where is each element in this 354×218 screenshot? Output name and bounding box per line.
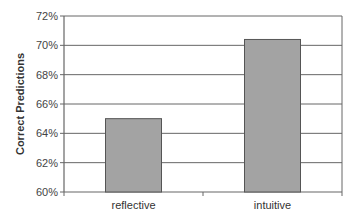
y-tick-label: 68% (36, 69, 58, 81)
y-tick-label: 60% (36, 186, 58, 198)
x-category-label: intuitive (254, 199, 291, 211)
y-tick-label: 70% (36, 39, 58, 51)
y-tick-label: 66% (36, 98, 58, 110)
x-category-label: reflective (111, 199, 155, 211)
y-axis-title: Correct Predictions (14, 53, 26, 155)
x-axis: reflectiveintuitive (64, 192, 342, 211)
y-tick-label: 64% (36, 127, 58, 139)
y-tick-label: 62% (36, 157, 58, 169)
bar-chart: 60%62%64%66%68%70%72% reflectiveintuitiv… (0, 0, 354, 218)
y-axis: 60%62%64%66%68%70%72% (36, 10, 64, 198)
bar-intuitive (245, 39, 301, 192)
bar-reflective (106, 119, 162, 192)
y-tick-label: 72% (36, 10, 58, 22)
bars (106, 39, 301, 192)
